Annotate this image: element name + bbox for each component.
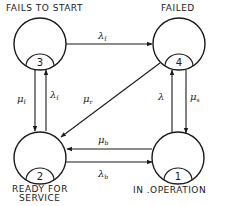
svg-text:λ: λ <box>157 91 164 102</box>
svg-text:λb: λb <box>97 168 108 180</box>
svg-text:λf: λf <box>49 89 59 101</box>
svg-text:μf: μf <box>17 93 27 105</box>
transition-3-to-4: λf <box>66 30 152 44</box>
svg-text:λf: λf <box>97 30 107 42</box>
svg-text:μr: μr <box>83 93 93 105</box>
state-node-1: 1 <box>152 132 204 184</box>
transition-4-to-2: μr <box>61 63 160 137</box>
svg-text:μs: μs <box>190 91 200 103</box>
transition-3-to-2: μf <box>17 70 35 131</box>
state-node-2: 2 <box>14 132 66 184</box>
state-label-failed: FAILED <box>161 4 195 13</box>
state-number-1: 1 <box>175 171 181 182</box>
state-number-3: 3 <box>37 57 43 68</box>
state-label-in-operation: IN .OPERATION <box>133 186 206 195</box>
state-transition-diagram: 3 4 2 1 λf μf <box>0 0 229 206</box>
transition-1-to-4: λ <box>157 70 172 132</box>
transition-2-to-1: λb <box>66 162 152 180</box>
state-number-4: 4 <box>176 57 182 68</box>
state-node-3: 3 <box>14 18 66 70</box>
transition-2-to-3: λf <box>46 70 59 131</box>
state-label-ready-for-service-line2: SERVICE <box>19 194 60 203</box>
state-number-2: 2 <box>37 171 43 182</box>
svg-text:μb: μb <box>98 134 109 146</box>
transition-1-to-2: μb <box>67 134 152 149</box>
state-node-4: 4 <box>153 18 205 70</box>
state-label-fails-to-start: FAILS TO START <box>6 4 83 13</box>
transition-4-to-1: μs <box>186 70 200 133</box>
